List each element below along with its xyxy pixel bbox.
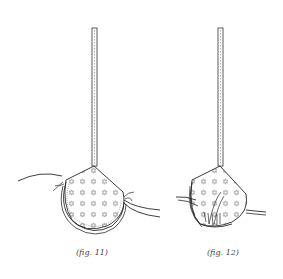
figure-11 — [18, 28, 160, 234]
figure-11-caption: (fig. 11) — [76, 248, 108, 257]
figure-12-caption: (fig. 12) — [207, 248, 239, 257]
diagram-page: (fig. 11) (fig. 12) — [0, 0, 283, 279]
cup-fabric-11 — [65, 166, 124, 229]
figure-12 — [176, 28, 266, 227]
strap-12 — [218, 28, 223, 166]
thread-left-11 — [18, 174, 62, 181]
thread-right-11 — [124, 200, 160, 210]
strap-11 — [92, 28, 97, 166]
thread-right-12 — [246, 210, 266, 212]
sewing-illustration — [0, 0, 283, 279]
